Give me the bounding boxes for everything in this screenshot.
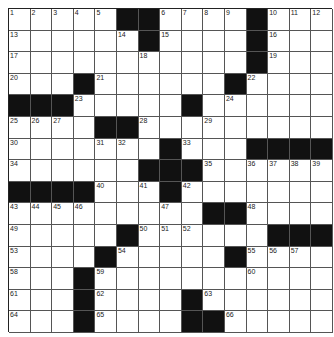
- grid-cell[interactable]: 14: [117, 31, 139, 53]
- grid-cell[interactable]: [139, 247, 161, 269]
- grid-cell[interactable]: [290, 182, 312, 204]
- grid-cell[interactable]: 18: [139, 52, 161, 74]
- grid-cell[interactable]: [182, 247, 204, 269]
- grid-cell[interactable]: 53: [9, 247, 31, 269]
- grid-cell[interactable]: [117, 160, 139, 182]
- grid-cell[interactable]: 30: [9, 139, 31, 161]
- grid-cell[interactable]: 33: [182, 139, 204, 161]
- grid-cell[interactable]: [31, 160, 53, 182]
- grid-cell[interactable]: 29: [203, 117, 225, 139]
- grid-cell[interactable]: [31, 139, 53, 161]
- grid-cell[interactable]: [203, 52, 225, 74]
- grid-cell[interactable]: [203, 182, 225, 204]
- grid-cell[interactable]: 26: [31, 117, 53, 139]
- grid-cell[interactable]: [311, 31, 333, 53]
- grid-cell[interactable]: [117, 203, 139, 225]
- grid-cell[interactable]: [290, 117, 312, 139]
- grid-cell[interactable]: 7: [182, 9, 204, 31]
- grid-cell[interactable]: [52, 247, 74, 269]
- grid-cell[interactable]: [74, 31, 96, 53]
- grid-cell[interactable]: [95, 225, 117, 247]
- grid-cell[interactable]: [139, 74, 161, 96]
- grid-cell[interactable]: [95, 203, 117, 225]
- grid-cell[interactable]: [52, 52, 74, 74]
- grid-cell[interactable]: 59: [95, 268, 117, 290]
- grid-cell[interactable]: [117, 74, 139, 96]
- grid-cell[interactable]: [160, 117, 182, 139]
- grid-cell[interactable]: [52, 225, 74, 247]
- grid-cell[interactable]: 62: [95, 290, 117, 312]
- grid-cell[interactable]: [203, 139, 225, 161]
- grid-cell[interactable]: [117, 95, 139, 117]
- grid-cell[interactable]: [311, 74, 333, 96]
- grid-cell[interactable]: [247, 117, 269, 139]
- grid-cell[interactable]: 42: [182, 182, 204, 204]
- grid-cell[interactable]: [311, 290, 333, 312]
- grid-cell[interactable]: 50: [139, 225, 161, 247]
- grid-cell[interactable]: [182, 117, 204, 139]
- grid-cell[interactable]: [290, 74, 312, 96]
- grid-cell[interactable]: [225, 290, 247, 312]
- grid-cell[interactable]: 9: [225, 9, 247, 31]
- grid-cell[interactable]: 12: [311, 9, 333, 31]
- grid-cell[interactable]: [268, 268, 290, 290]
- grid-cell[interactable]: [203, 268, 225, 290]
- grid-cell[interactable]: 5: [95, 9, 117, 31]
- grid-cell[interactable]: [74, 247, 96, 269]
- grid-cell[interactable]: [247, 311, 269, 333]
- grid-cell[interactable]: 22: [247, 74, 269, 96]
- grid-cell[interactable]: [203, 247, 225, 269]
- grid-cell[interactable]: [311, 182, 333, 204]
- grid-cell[interactable]: [290, 268, 312, 290]
- grid-cell[interactable]: 34: [9, 160, 31, 182]
- grid-cell[interactable]: [31, 52, 53, 74]
- grid-cell[interactable]: 1: [9, 9, 31, 31]
- grid-cell[interactable]: [117, 311, 139, 333]
- grid-cell[interactable]: [117, 52, 139, 74]
- grid-cell[interactable]: [203, 31, 225, 53]
- grid-cell[interactable]: [182, 203, 204, 225]
- grid-cell[interactable]: 61: [9, 290, 31, 312]
- grid-cell[interactable]: 64: [9, 311, 31, 333]
- grid-cell[interactable]: 38: [290, 160, 312, 182]
- grid-cell[interactable]: [311, 203, 333, 225]
- grid-cell[interactable]: 56: [268, 247, 290, 269]
- grid-cell[interactable]: [182, 268, 204, 290]
- grid-cell[interactable]: 49: [9, 225, 31, 247]
- grid-cell[interactable]: 40: [95, 182, 117, 204]
- grid-cell[interactable]: [311, 247, 333, 269]
- grid-cell[interactable]: [182, 31, 204, 53]
- grid-cell[interactable]: 47: [160, 203, 182, 225]
- grid-cell[interactable]: [247, 95, 269, 117]
- grid-cell[interactable]: [290, 290, 312, 312]
- grid-cell[interactable]: 24: [225, 95, 247, 117]
- grid-cell[interactable]: [74, 160, 96, 182]
- grid-cell[interactable]: [268, 117, 290, 139]
- grid-cell[interactable]: 65: [95, 311, 117, 333]
- grid-cell[interactable]: 43: [9, 203, 31, 225]
- grid-cell[interactable]: [52, 31, 74, 53]
- grid-cell[interactable]: [31, 311, 53, 333]
- grid-cell[interactable]: [247, 182, 269, 204]
- grid-cell[interactable]: [225, 117, 247, 139]
- grid-cell[interactable]: 8: [203, 9, 225, 31]
- grid-cell[interactable]: [247, 290, 269, 312]
- grid-cell[interactable]: 37: [268, 160, 290, 182]
- grid-cell[interactable]: [311, 117, 333, 139]
- grid-cell[interactable]: 35: [203, 160, 225, 182]
- grid-cell[interactable]: [160, 290, 182, 312]
- grid-cell[interactable]: 19: [268, 52, 290, 74]
- grid-cell[interactable]: [268, 203, 290, 225]
- grid-cell[interactable]: [290, 203, 312, 225]
- grid-cell[interactable]: [139, 290, 161, 312]
- grid-cell[interactable]: [52, 268, 74, 290]
- grid-cell[interactable]: [117, 290, 139, 312]
- grid-cell[interactable]: 55: [247, 247, 269, 269]
- grid-cell[interactable]: 21: [95, 74, 117, 96]
- grid-cell[interactable]: [74, 139, 96, 161]
- grid-cell[interactable]: 51: [160, 225, 182, 247]
- grid-cell[interactable]: [74, 225, 96, 247]
- grid-cell[interactable]: 16: [268, 31, 290, 53]
- grid-cell[interactable]: 11: [290, 9, 312, 31]
- grid-cell[interactable]: [52, 311, 74, 333]
